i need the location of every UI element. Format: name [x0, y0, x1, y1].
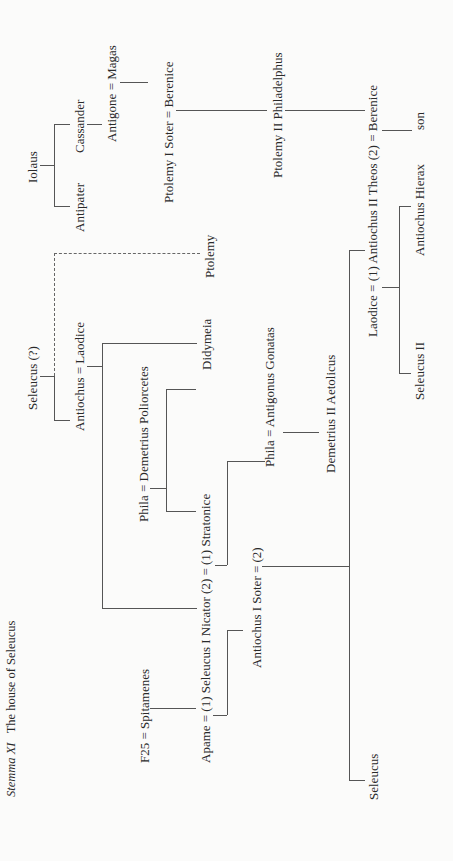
line [166, 389, 167, 511]
node-phila-demetrius: Phila = Demetrius Poliorcetes [137, 366, 151, 522]
line [399, 206, 411, 207]
stemma-title: Stemma XI The house of Seleucus [4, 621, 18, 797]
node-antiochus-laodice: Antiochus = Laodice [73, 322, 87, 431]
line [227, 630, 243, 631]
line [102, 343, 103, 608]
line [285, 110, 365, 111]
line [349, 250, 365, 251]
line [40, 165, 54, 166]
line [399, 206, 400, 373]
line [54, 376, 55, 420]
node-ptolemy1-berenice: Ptolemy I Soter = Berenice [162, 61, 176, 203]
line [262, 566, 350, 567]
node-iolaus: Iolaus [26, 151, 40, 183]
node-son: son [413, 112, 427, 130]
node-antiochus-hierax: Antiochus Hierax [413, 164, 427, 256]
line [227, 461, 228, 565]
line [87, 366, 102, 367]
line [54, 124, 70, 125]
node-f25-spitamenes: F25 = Spitamenes [138, 669, 152, 763]
node-antigone-magas: Antigone = Magas [105, 45, 119, 142]
line [213, 715, 227, 716]
line [150, 708, 196, 709]
line [54, 420, 70, 421]
line [176, 110, 267, 111]
line [349, 250, 350, 780]
line [382, 130, 412, 131]
line [102, 343, 197, 344]
line [87, 124, 102, 125]
line [227, 630, 228, 715]
line [166, 389, 196, 390]
node-demetrius2: Demetrius II Aetolicus [324, 355, 338, 473]
node-phila-antigonus: Phila = Antigonus Gonatas [263, 327, 277, 467]
line [150, 488, 166, 489]
line [102, 608, 197, 609]
dashed-line [54, 253, 55, 376]
line [215, 565, 227, 566]
line [399, 373, 411, 374]
node-didymeia: Didymeia [200, 319, 214, 370]
stemma-title-text: The house of Seleucus [4, 621, 18, 734]
stemma-label: Stemma XI [4, 743, 18, 798]
node-ptolemy: Ptolemy [203, 235, 217, 278]
line [349, 780, 365, 781]
line [283, 432, 319, 433]
line [54, 124, 55, 206]
node-antipater: Antipater [73, 183, 87, 232]
line [120, 82, 148, 83]
node-cassander: Cassander [73, 100, 87, 153]
line [54, 206, 70, 207]
line [166, 511, 196, 512]
node-seleucus2: Seleucus II [413, 342, 427, 400]
node-apame-seleucus1-stratonice: Apame = (1) Seleucus I Nicator (2) = (1)… [199, 494, 213, 763]
node-seleucus: Seleucus [367, 754, 381, 800]
node-ptolemy2: Ptolemy II Philadelphus [271, 52, 285, 178]
node-seleucus-q: Seleucus (?) [26, 346, 40, 410]
line [40, 376, 54, 377]
node-laodice-antiochus2-berenice: Laodice = (1) Antiochus II Theos (2) = B… [366, 85, 380, 337]
dashed-line [54, 253, 200, 254]
line [382, 287, 399, 288]
line [227, 461, 265, 462]
